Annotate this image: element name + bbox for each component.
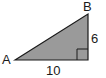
side-label-base: 10: [46, 63, 60, 78]
right-triangle-diagram: A B 6 10: [0, 0, 106, 78]
vertex-label-a: A: [2, 52, 11, 67]
vertex-label-b: B: [83, 0, 92, 14]
side-label-height: 6: [91, 31, 98, 46]
